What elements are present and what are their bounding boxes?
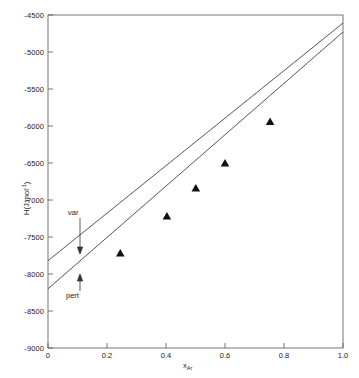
y-axis-title-superscript: -1	[21, 184, 27, 189]
data-marker	[221, 159, 230, 167]
y-tick-label: -7500	[8, 233, 44, 242]
data-marker	[163, 212, 172, 220]
annotation-label-var: var	[68, 208, 78, 217]
plot-canvas	[0, 0, 359, 378]
x-tick-label: 0.8	[274, 351, 294, 360]
annotation-label-pert: pert	[66, 291, 79, 300]
y-tick-label: -8500	[8, 307, 44, 316]
y-tick-label: -5000	[8, 48, 44, 57]
x-tick-label: 0.2	[97, 351, 117, 360]
y-tick-marks	[48, 15, 53, 348]
x-axis-title: xAr	[183, 361, 192, 370]
y-axis-title-base: H(J mol	[22, 189, 31, 215]
x-axis-title-subscript: Ar	[187, 365, 193, 371]
y-axis-title: H(J mol-1)	[22, 182, 31, 215]
x-tick-label: 0.6	[215, 351, 235, 360]
line-pert	[48, 32, 343, 289]
data-marker	[116, 249, 125, 257]
x-tick-label: 1.0	[333, 351, 353, 360]
x-tick-label: 0.4	[156, 351, 176, 360]
line-var	[48, 23, 343, 261]
data-marker	[266, 118, 275, 126]
y-tick-label: -6500	[8, 159, 44, 168]
data-marker	[192, 184, 201, 192]
y-tick-label: -8000	[8, 270, 44, 279]
x-tick-marks	[48, 343, 343, 348]
y-tick-label: -4500	[8, 11, 44, 20]
y-tick-label: -5500	[8, 85, 44, 94]
plot-frame	[48, 15, 343, 348]
y-tick-label: -6000	[8, 122, 44, 131]
x-tick-label: 0	[38, 351, 58, 360]
annotation-arrows	[77, 218, 82, 291]
chart-figure: -4500 -5000 -5500 -6000 -6500 -7000 -750…	[0, 0, 359, 378]
